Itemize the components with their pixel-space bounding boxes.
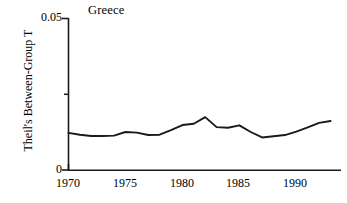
y-tick-label-top: 0.05 <box>8 11 62 24</box>
y-tick-label-bottom: 0 <box>8 163 62 176</box>
x-tick-label-1990: 1990 <box>270 176 320 190</box>
y-axis-label: Theil's Between-Group T <box>22 5 35 177</box>
x-tick-label-1985: 1985 <box>213 176 263 190</box>
chart-figure: Greece Theil's Between-Group T 0.05 0 19… <box>0 0 347 203</box>
panel-title: Greece <box>88 3 125 17</box>
x-tick-label-1975: 1975 <box>100 176 150 190</box>
x-tick-label-1980: 1980 <box>157 176 207 190</box>
x-tick-label-1970: 1970 <box>43 176 93 190</box>
